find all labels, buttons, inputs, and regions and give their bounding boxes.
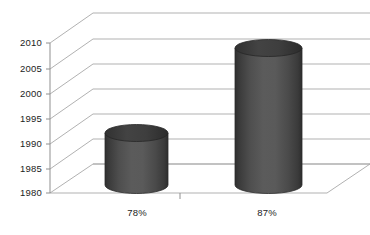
y-axis xyxy=(46,43,50,193)
gridline-top xyxy=(50,13,370,43)
y-axis-label-1985: 1985 xyxy=(10,164,42,174)
bar-cylinder-2-top-cap xyxy=(235,40,302,57)
bar-cylinder-2-body xyxy=(235,48,302,194)
y-axis-label-2005: 2005 xyxy=(10,64,42,74)
bar-cylinder-1-body xyxy=(105,133,168,194)
bar-cylinder-1-top-cap xyxy=(105,125,168,142)
floor-plane xyxy=(50,164,370,193)
gridline-2005 xyxy=(50,64,370,94)
y-axis-label-2000: 2000 xyxy=(10,89,42,99)
bar-cylinder-2[interactable] xyxy=(235,40,302,194)
y-axis-label-1995: 1995 xyxy=(10,114,42,124)
chart-container: 2010 2005 2000 1995 1990 1985 1980 78% 8… xyxy=(0,0,370,235)
gridline-2010 xyxy=(50,39,370,69)
y-axis-label-1990: 1990 xyxy=(10,139,42,149)
y-axis-label-2010: 2010 xyxy=(10,38,42,48)
gridline-1985 xyxy=(50,164,370,193)
gridline-1990 xyxy=(50,139,370,169)
gridline-group xyxy=(50,13,370,193)
x-axis-label-78: 78% xyxy=(106,208,168,218)
x-axis-label-87: 87% xyxy=(236,208,298,218)
chart-plot-area xyxy=(0,0,370,235)
gridline-1995 xyxy=(50,114,370,144)
floor-right-edge xyxy=(327,164,370,193)
bar-cylinder-1[interactable] xyxy=(105,125,168,194)
gridline-2000 xyxy=(50,89,370,119)
y-axis-label-1980: 1980 xyxy=(10,188,42,198)
